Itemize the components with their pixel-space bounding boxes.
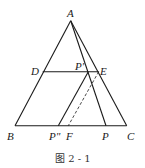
label-E: E	[99, 65, 107, 77]
label-D: D	[30, 65, 39, 77]
figure-caption: 图 2 - 1	[55, 153, 91, 164]
label-P-prime: P'	[74, 60, 85, 72]
segment-AC	[71, 21, 127, 126]
label-P-double-prime: P"	[48, 130, 61, 142]
label-B: B	[7, 130, 14, 142]
label-P: P	[101, 130, 109, 142]
geometry-figure: A D P' E B P" F P C 图 2 - 1	[0, 0, 145, 168]
segment-AB	[15, 21, 71, 126]
label-F: F	[65, 130, 73, 142]
label-C: C	[127, 130, 135, 142]
label-A: A	[66, 7, 74, 19]
